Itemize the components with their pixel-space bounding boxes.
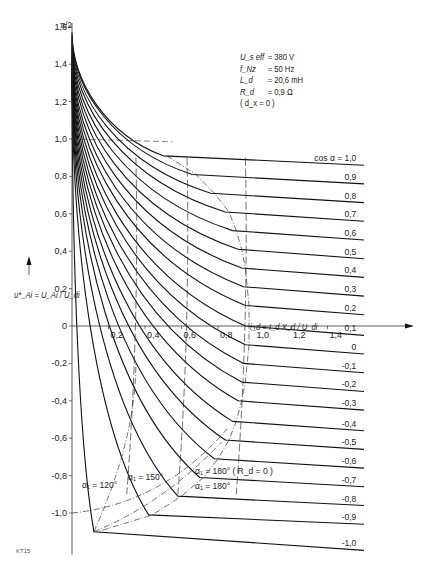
cos-alpha-curve	[72, 62, 364, 411]
pi-half-marker: π/2	[60, 20, 72, 31]
cos-alpha-label: 0,3	[345, 284, 357, 294]
cos-alpha-label: -0,6	[342, 456, 357, 466]
y-tick-label: 0	[62, 321, 67, 331]
cos-alpha-curve	[72, 44, 364, 259]
cos-alpha-label: -0,5	[342, 437, 357, 447]
param-inductance: L_d = 20,6 mH	[240, 75, 303, 87]
x-tick-label: 0,4	[147, 330, 160, 340]
y-tick-label: 1,4	[54, 59, 67, 69]
cos-alpha-label: -0,2	[342, 379, 357, 389]
alpha-boundary-label: α₁ = 120°	[82, 480, 117, 490]
y-tick-label: -0,8	[51, 471, 67, 481]
cos-alpha-label: -0,3	[342, 398, 357, 408]
y-tick-label: 0,4	[54, 246, 67, 256]
y-tick-label: -0,6	[51, 433, 67, 443]
cos-alpha-label: 0,4	[345, 265, 357, 275]
cos-alpha-curve	[72, 71, 364, 487]
cos-alpha-curve	[72, 68, 364, 468]
y-tick-label: 1,2	[54, 97, 67, 107]
y-tick-label: 0,8	[54, 171, 67, 181]
cos-alpha-label: cos α = 1,0	[314, 153, 356, 163]
cos-alpha-curve	[72, 64, 364, 431]
cos-alpha-curve	[72, 66, 364, 449]
x-tick-label: 0,8	[220, 330, 233, 340]
y-tick-label: 1,0	[54, 134, 67, 144]
x-axis-arrow-icon	[405, 324, 414, 329]
alpha-boundary-label: α₁ = 180° ( R_d = 0 )	[195, 466, 273, 476]
series-labels: cos α = 1,00,90,80,70,60,50,40,30,20,10-…	[82, 153, 357, 548]
cos-alpha-label: 0,5	[345, 247, 357, 257]
param-frequency: f_Nz = 50 Hz	[240, 64, 303, 76]
alpha-boundary-label: α₁ = 180°	[195, 481, 230, 491]
parameter-block: U_s eff = 380 V f_Nz = 50 Hz L_d = 20,6 …	[240, 52, 303, 110]
cos-alpha-label: -0,8	[342, 494, 357, 504]
cos-alpha-curve	[72, 41, 364, 240]
figure-code: KT15	[16, 548, 30, 554]
cos-alpha-curve	[72, 37, 364, 203]
x-tick-label: 0,2	[111, 330, 124, 340]
cos-alpha-label: 0,7	[345, 209, 357, 219]
param-resistance: R_d = 0,9 Ω	[240, 87, 303, 99]
cos-alpha-label: 0,1	[345, 323, 357, 333]
cos-alpha-label: -0,9	[342, 512, 357, 522]
cos-alpha-label: -0,4	[342, 419, 357, 429]
alpha-boundary-label: α₁ = 150°	[128, 472, 163, 482]
y-tick-label: -1,0	[51, 508, 67, 518]
cos-alpha-label: -0,7	[342, 475, 357, 485]
y-axis-label: u*_Ai = U_Ai / U_di	[14, 290, 80, 301]
cos-alpha-label: 0,6	[345, 228, 357, 238]
cos-alpha-curve	[72, 55, 364, 354]
cos-alpha-label: -1,0	[342, 538, 357, 548]
cos-alpha-label: -0,1	[342, 361, 357, 371]
cos-alpha-label: 0,9	[345, 172, 357, 182]
cos-alpha-curve	[72, 75, 364, 524]
x-tick-label: 0,6	[184, 330, 197, 340]
cos-alpha-label: 0,8	[345, 191, 357, 201]
param-dx: ( d_x = 0 )	[240, 98, 303, 110]
y-tick-label: 0,6	[54, 209, 67, 219]
cos-alpha-label: 0,2	[345, 303, 357, 313]
y-tick-label: -0,2	[51, 358, 67, 368]
param-voltage: U_s eff = 380 V	[240, 52, 303, 64]
x-axis-label: i_d = I_d X_d / U_di	[250, 322, 317, 333]
chart-canvas: 1,61,41,21,00,80,60,40,20-0,2-0,4-0,6-0,…	[0, 0, 430, 568]
cos-alpha-label: 0	[352, 342, 357, 352]
cos-alpha-curve	[72, 57, 364, 373]
y-tick-label: -0,4	[51, 396, 67, 406]
x-tick-label: 1,4	[330, 330, 343, 340]
y-axis-arrow-icon	[27, 256, 32, 265]
